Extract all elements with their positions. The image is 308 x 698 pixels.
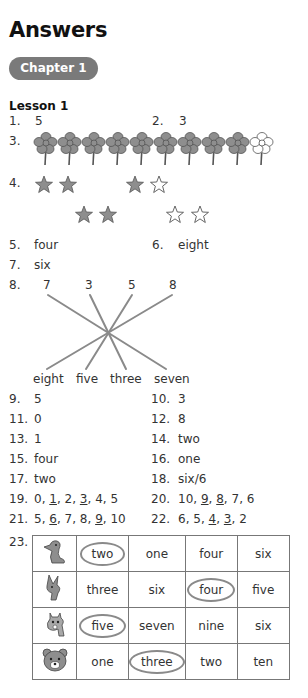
lesson-heading: Lesson 1: [9, 99, 68, 113]
page-title: Answers: [9, 18, 107, 42]
option-cell: one: [77, 644, 129, 680]
option-cell: three: [129, 644, 186, 680]
question-number: 14.: [151, 432, 170, 446]
answer-text: 3: [178, 392, 186, 406]
flowers-row: [33, 131, 283, 167]
answer-text: four: [34, 238, 58, 252]
underlined-number: 8: [216, 492, 224, 506]
question-number: 17.: [9, 472, 28, 486]
option-cell: three: [77, 572, 129, 608]
answer-text: six: [34, 258, 51, 272]
underlined-number: 1: [49, 492, 57, 506]
question-number: 18.: [151, 472, 170, 486]
flower-outline-icon: [250, 133, 273, 166]
question-number: 6.: [152, 238, 163, 252]
question-number: 3.: [9, 134, 20, 148]
animal-count-table: two one four six three six four five fiv…: [32, 535, 290, 680]
underlined-number: 4: [209, 512, 217, 526]
answer-text: 5: [35, 114, 43, 128]
flower-icon: [34, 133, 57, 166]
table-row: three six four five: [33, 572, 290, 608]
answer-text: 1: [34, 432, 42, 446]
kangaroo-icon: [40, 573, 70, 603]
circled-answer: four: [187, 578, 235, 602]
option-cell: four: [185, 536, 237, 572]
answer-text: four: [34, 452, 58, 466]
underlined-number: 6: [49, 512, 57, 526]
question-number: 2.: [152, 114, 163, 128]
flower-icon: [82, 133, 105, 166]
question-number: 10.: [151, 392, 170, 406]
star-filled-icon: [127, 176, 144, 193]
answer-text: eight: [178, 238, 209, 252]
question-number: 16.: [151, 452, 170, 466]
question-number: 7.: [9, 258, 20, 272]
option-cell: five: [77, 608, 129, 644]
circled-answer: three: [129, 650, 185, 674]
question-number: 11.: [9, 412, 28, 426]
star-empty-icon: [167, 206, 184, 223]
answer-text: six/6: [178, 472, 206, 486]
animal-cell: [33, 608, 77, 644]
star-empty-icon: [192, 206, 209, 223]
flower-icon: [178, 133, 201, 166]
question-number: 13.: [9, 432, 28, 446]
question-number: 1.: [9, 114, 20, 128]
question-number: 23.: [9, 535, 28, 549]
option-cell: one: [129, 536, 186, 572]
match-bottom-item: seven: [154, 372, 190, 386]
question-number: 20.: [151, 492, 170, 506]
star-filled-icon: [60, 176, 77, 193]
question-number: 12.: [151, 412, 170, 426]
answer-text: 8: [178, 412, 186, 426]
table-row: one three two ten: [33, 644, 290, 680]
answer-text: two: [178, 432, 200, 446]
question-number: 19.: [9, 492, 28, 506]
circled-answer: two: [80, 542, 126, 566]
bear-icon: [40, 646, 70, 674]
answer-text: two: [34, 472, 56, 486]
star-filled-icon: [36, 176, 53, 193]
circled-answer: five: [79, 614, 125, 638]
star-filled-icon: [76, 206, 93, 223]
duck-icon: [40, 538, 70, 566]
option-cell: six: [237, 608, 289, 644]
match-bottom-item: three: [110, 372, 142, 386]
table-row: two one four six: [33, 536, 290, 572]
option-cell: two: [185, 644, 237, 680]
sequence-answer: 10, 9, 8, 7, 6: [178, 492, 254, 506]
underlined-number: 3: [80, 492, 88, 506]
sequence-answer: 5, 6, 7, 8, 9, 10: [34, 512, 126, 526]
flower-icon: [226, 133, 249, 166]
underlined-number: 3: [224, 512, 232, 526]
answer-text: one: [178, 452, 200, 466]
option-cell: five: [237, 572, 289, 608]
match-bottom-item: five: [76, 372, 98, 386]
question-number: 5.: [9, 238, 20, 252]
underlined-number: 9: [95, 512, 103, 526]
sequence-answer: 6, 5, 4, 3, 2: [178, 512, 247, 526]
giraffe-icon: [40, 609, 70, 639]
flower-icon: [106, 133, 129, 166]
flower-icon: [154, 133, 177, 166]
star-empty-icon: [151, 176, 168, 193]
star-filled-icon: [100, 206, 117, 223]
answer-text: 0: [34, 412, 42, 426]
answer-text: 3: [179, 114, 187, 128]
flower-icon: [202, 133, 225, 166]
question-number: 9.: [9, 392, 20, 406]
flower-icon: [130, 133, 153, 166]
flower-icon: [58, 133, 81, 166]
animal-cell: [33, 536, 77, 572]
answer-text: 5: [34, 392, 42, 406]
animal-cell: [33, 644, 77, 680]
option-cell: six: [237, 536, 289, 572]
option-cell: six: [129, 572, 186, 608]
option-cell: two: [77, 536, 129, 572]
table-row: five seven nine six: [33, 608, 290, 644]
option-cell: ten: [237, 644, 289, 680]
question-number: 15.: [9, 452, 28, 466]
option-cell: nine: [185, 608, 237, 644]
match-bottom-item: eight: [33, 372, 64, 386]
underlined-number: 9: [201, 492, 209, 506]
